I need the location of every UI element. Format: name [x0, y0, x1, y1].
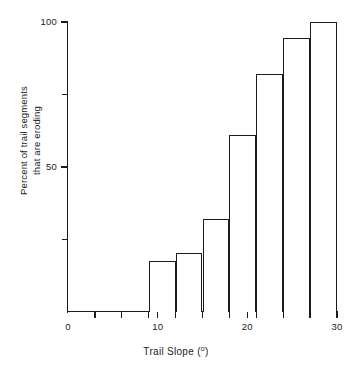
x-tick-3 [94, 312, 95, 318]
x-tick-label-20: 20 [234, 322, 260, 332]
y-tick-25 [62, 239, 68, 240]
x-tick-label-30: 30 [324, 322, 350, 332]
y-tick-100 [61, 21, 68, 22]
bar-21-24 [256, 74, 283, 312]
x-tick-9 [148, 312, 149, 318]
x-tick-label-0: 0 [55, 322, 81, 332]
bar-15-18 [203, 219, 230, 312]
bar-9-12 [149, 261, 176, 312]
x-axis-title-close: ) [205, 346, 209, 357]
x-axis-title: Trail Slope (o) [0, 345, 352, 357]
x-tick-27 [309, 312, 310, 318]
bar-27-30 [310, 22, 337, 312]
x-tick-24 [283, 312, 284, 318]
y-tick-75 [62, 94, 68, 95]
x-tick-18 [229, 312, 230, 318]
y-axis-title-line2: that are eroding [30, 51, 43, 231]
x-tick-6 [121, 312, 122, 318]
y-axis-title: Percent of trail segments that are erodi… [18, 51, 43, 231]
x-tick-12 [175, 312, 176, 318]
x-tick-20 [247, 312, 248, 318]
bar-24-27 [283, 38, 310, 312]
bar-12-15 [176, 253, 203, 312]
chart-figure: 10050 0102030 Percent of trail segments … [0, 0, 352, 366]
y-tick-label-100: 100 [29, 17, 57, 27]
x-tick-30 [336, 312, 337, 318]
x-axis-title-text: Trail Slope ( [143, 346, 200, 357]
y-tick-50 [61, 166, 68, 167]
x-tick-label-10: 10 [145, 322, 171, 332]
x-tick-10 [157, 312, 158, 318]
x-tick-15 [202, 312, 203, 318]
x-tick-21 [256, 312, 257, 318]
y-axis-title-line1: Percent of trail segments [18, 51, 31, 231]
bar-18-21 [229, 135, 256, 312]
